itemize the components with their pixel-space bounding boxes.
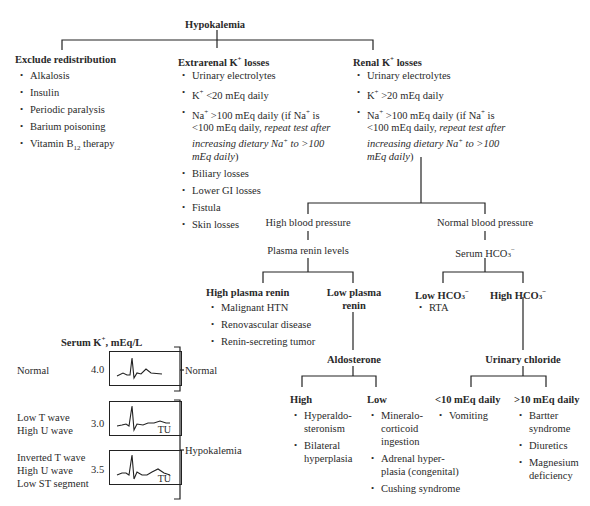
ecg-row-desc: Low T wave bbox=[17, 411, 70, 424]
ecg-row-value: 3.0 bbox=[91, 417, 104, 430]
list-item-vitamin-b12: Vitamin B12 therapy bbox=[19, 137, 115, 155]
ecg-waveform-icon bbox=[110, 402, 183, 437]
list-item: Insulin bbox=[19, 86, 115, 99]
high-hco3-title: High HCO3− bbox=[490, 286, 546, 304]
aldosterone-node: Aldosterone bbox=[318, 353, 390, 366]
low-hco3-list: RTA bbox=[418, 301, 449, 318]
list-item: Barttersyndrome bbox=[518, 409, 588, 435]
ecg-panel-title: Serum K+, mEq/L bbox=[61, 333, 142, 349]
list-item: K+ >20 mEq daily bbox=[356, 86, 506, 102]
plasma-renin-node: Plasma renin levels bbox=[260, 244, 356, 257]
low-renin-title: Low plasma renin bbox=[326, 286, 382, 312]
aldo-high-title: High bbox=[290, 393, 312, 406]
ecg-row-desc: High U wave bbox=[17, 464, 73, 477]
list-item: Urinary electrolytes bbox=[181, 69, 331, 82]
list-item: Hyperaldo-steronism bbox=[293, 409, 353, 435]
list-item: Diuretics bbox=[518, 439, 588, 452]
normal-bp-node: Normal blood pressure bbox=[432, 216, 538, 229]
list-item: Bilateralhyperplasia bbox=[293, 439, 353, 465]
gt10-title: >10 mEq daily bbox=[514, 393, 580, 406]
list-item: Fistula bbox=[181, 201, 331, 214]
list-item: Lower GI losses bbox=[181, 184, 331, 197]
renal-title: Renal K+ losses bbox=[353, 53, 422, 69]
list-item: Periodic paralysis bbox=[19, 103, 115, 116]
extrarenal-title: Extrarenal K+ losses bbox=[178, 53, 269, 69]
ecg-waveform-icon bbox=[110, 451, 183, 486]
bracket-label-hypokalemia: Hypokalemia bbox=[185, 444, 242, 457]
ecg-trace-normal bbox=[109, 351, 182, 386]
lt10-title: <10 mEq daily bbox=[435, 393, 501, 406]
list-item: Barium poisoning bbox=[19, 120, 115, 133]
aldo-low-title: Low bbox=[367, 393, 387, 406]
ecg-trace-inverted-t: TU bbox=[109, 450, 182, 485]
gt10-list: Barttersyndrome Diuretics Magnesiumdefic… bbox=[518, 409, 588, 486]
ecg-row-desc: Inverted T wave bbox=[17, 451, 85, 464]
ecg-row-desc: High U wave bbox=[17, 424, 73, 437]
renal-list: Urinary electrolytes K+ >20 mEq daily Na… bbox=[356, 69, 506, 167]
ecg-waveform-icon bbox=[110, 352, 183, 387]
list-item: RTA bbox=[418, 301, 449, 314]
ecg-row-value: 4.0 bbox=[91, 363, 104, 376]
list-item-sodium-note: Na+ >100 mEq daily (if Na+ is <100 mEq d… bbox=[356, 106, 506, 163]
tu-label: TU bbox=[158, 473, 171, 484]
list-item: K+ <20 mEq daily bbox=[181, 86, 331, 102]
ecg-row-desc: Low ST segment bbox=[17, 477, 89, 490]
tu-label: TU bbox=[158, 424, 171, 435]
urinary-chloride-node: Urinary chloride bbox=[478, 353, 568, 366]
ecg-trace-low-t: TU bbox=[109, 401, 182, 436]
list-item: Renin-secreting tumor bbox=[210, 335, 315, 348]
serum-hco3-node: Serum HCO3− bbox=[446, 244, 524, 262]
list-item: Renovascular disease bbox=[210, 318, 315, 331]
high-renin-list: Malignant HTN Renovascular disease Renin… bbox=[210, 301, 315, 352]
list-item: Urinary electrolytes bbox=[356, 69, 506, 82]
list-item: Magnesiumdeficiency bbox=[518, 456, 588, 482]
high-renin-title: High plasma renin bbox=[206, 286, 289, 299]
list-item: Cushing syndrome bbox=[370, 482, 460, 495]
list-item: Malignant HTN bbox=[210, 301, 315, 314]
aldo-high-list: Hyperaldo-steronism Bilateralhyperplasia bbox=[293, 409, 353, 469]
ecg-row-value: 3.5 bbox=[91, 463, 104, 476]
list-item: Alkalosis bbox=[19, 69, 115, 82]
root-title: Hypokalemia bbox=[185, 18, 245, 31]
list-item: Vomiting bbox=[438, 409, 488, 422]
lt10-list: Vomiting bbox=[438, 409, 488, 426]
list-item-sodium-note: Na+ >100 mEq daily (if Na+ is <100 mEq d… bbox=[181, 106, 331, 163]
redistribution-list: Alkalosis Insulin Periodic paralysis Bar… bbox=[19, 69, 115, 159]
high-bp-node: High blood pressure bbox=[258, 216, 358, 229]
redistribution-title: Exclude redistribution bbox=[15, 53, 116, 66]
extrarenal-list: Urinary electrolytes K+ <20 mEq daily Na… bbox=[181, 69, 331, 235]
bracket-label-normal: Normal bbox=[185, 364, 217, 377]
list-item: Adrenal hyper-plasia (congenital) bbox=[370, 452, 460, 478]
ecg-row-desc: Normal bbox=[17, 364, 49, 377]
list-item: Biliary losses bbox=[181, 167, 331, 180]
